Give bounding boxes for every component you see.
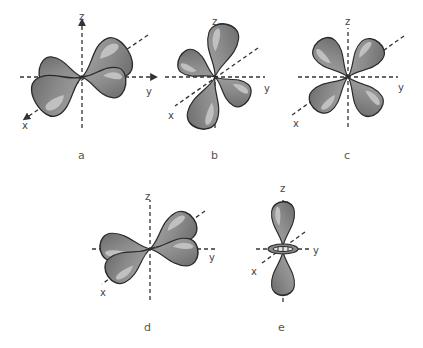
x-label: x [251,266,257,277]
panel-c: z y x c [292,16,404,162]
panel-label-e: e [278,321,285,334]
panel-d: z y x d [92,191,215,334]
y-label: y [264,83,270,94]
orbital-lobes [268,202,298,296]
y-label: y [398,82,404,93]
y-label: y [146,86,152,97]
z-label: z [145,191,150,202]
z-label: z [79,11,84,22]
y-label: y [209,252,215,263]
x-label: x [22,120,28,131]
panel-label-b: b [211,149,218,162]
z-label: z [212,16,217,27]
panel-a: z y x a [20,11,154,162]
panel-label-a: a [78,149,85,162]
orbital-lobes [99,206,202,288]
panel-label-d: d [144,321,151,334]
torus [268,244,298,254]
orbital-lobes [26,32,139,122]
orbital-figure: z y x a z y x b z y x c [0,0,423,348]
z-label: z [280,183,285,194]
panel-e: z y x e [251,183,319,334]
panel-b: z y x b [165,16,270,162]
x-label: x [293,118,299,129]
panel-label-c: c [344,149,350,162]
z-label: z [345,16,350,27]
x-label: x [100,287,106,298]
y-label: y [313,245,319,256]
x-label: x [168,110,174,121]
